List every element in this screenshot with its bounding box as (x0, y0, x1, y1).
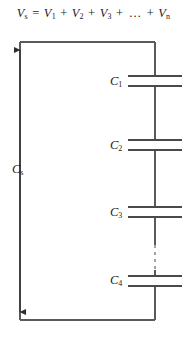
source-capacitance-subscript: s (20, 168, 23, 177)
source-capacitance-label: Cs (12, 162, 23, 177)
capacitor-2-subscript: 2 (118, 144, 122, 153)
capacitor-2-label: C2 (110, 138, 122, 153)
capacitor-1-label: C1 (110, 74, 122, 89)
series-capacitor-figure: Vs = V1 + V2 + V3 + … + Vn (0, 0, 187, 344)
capacitor-3-subscript: 3 (118, 211, 122, 220)
circuit-schematic (0, 0, 187, 344)
capacitor-4-subscript: 4 (118, 279, 122, 288)
capacitor-3-label: C3 (110, 205, 122, 220)
capacitor-1-subscript: 1 (118, 80, 122, 89)
capacitor-4-label: C4 (110, 273, 122, 288)
